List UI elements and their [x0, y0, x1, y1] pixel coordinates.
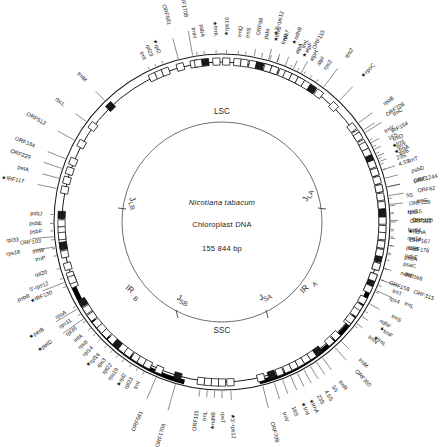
- gene-label: ORF115: [311, 29, 326, 50]
- gene-label: psbC: [413, 175, 427, 184]
- gene-label: trnV: [281, 411, 290, 423]
- gene-leader-line: [310, 366, 318, 379]
- gene-leader-line: [342, 342, 350, 350]
- gene-label: ORF1708: [179, 0, 189, 18]
- genome-diagram-svg: Nicotiana tabacum Chloroplast DNA 155 84…: [0, 0, 445, 447]
- gene-leader-line: [48, 152, 66, 159]
- gene-label: trnS: [390, 313, 402, 323]
- gene-leader-line: [291, 65, 292, 68]
- gene-leader-line: [376, 292, 379, 293]
- gene-leader-line: [88, 328, 90, 330]
- gene-leader-line: [324, 69, 338, 87]
- gene-label: ★trnI: [300, 401, 311, 416]
- gene-leader-line: [285, 57, 288, 65]
- inverted-repeat-a-arc: [260, 288, 371, 383]
- gene-leader-line: [130, 365, 132, 368]
- gene-label: trnL: [404, 300, 415, 309]
- gene-label: rps2: [343, 47, 354, 59]
- gene-label: 16S: [291, 406, 300, 418]
- region-label-ira: IR A: [298, 277, 319, 297]
- gene-box: [176, 63, 185, 72]
- gene-leader-line: [57, 269, 60, 270]
- gene-leader-line: [384, 269, 391, 271]
- gene-label: trnT: [407, 155, 419, 164]
- gene-leader-line: [373, 145, 376, 146]
- region-label-lsc: LSC: [214, 107, 230, 116]
- gene-leader-line: [136, 368, 138, 371]
- gene-box: [376, 193, 384, 201]
- gene-label: rps7: [220, 412, 226, 423]
- gene-label: ORF708: [269, 421, 280, 443]
- gene-leader-line: [379, 285, 382, 286]
- gene-label: ★rps16: [223, 17, 229, 36]
- species-name: Nicotiana tabacum: [189, 198, 255, 207]
- gene-leader-line: [78, 314, 81, 316]
- gene-leader-line: [370, 139, 373, 140]
- gene-box: [58, 211, 66, 219]
- gene-label: trnI: [139, 51, 148, 61]
- gene-leader-line: [98, 339, 100, 341]
- gene-label: psbI: [262, 28, 270, 40]
- gene-leader-line: [38, 185, 57, 189]
- gene-leader-line: [364, 123, 375, 130]
- gene-label: ORF115: [191, 410, 200, 431]
- gene-leader-line: [291, 376, 297, 390]
- gene-leader-line: [207, 390, 208, 397]
- gene-leader-line: [379, 158, 382, 159]
- gene-box: [240, 59, 248, 67]
- region-label-irb-text: IR: [124, 283, 136, 295]
- gene-box: [63, 262, 72, 271]
- gene-leader-line: [383, 166, 395, 170]
- gene-label: trnH: [190, 27, 197, 38]
- gene-box: [58, 220, 65, 227]
- gene-leader-line: [147, 378, 156, 399]
- region-label-ssc: SSC: [214, 326, 231, 335]
- gene-leader-line: [376, 152, 379, 153]
- gene-box: [60, 250, 68, 258]
- gene-leader-line: [155, 64, 156, 67]
- gene-leader-line: [378, 153, 384, 156]
- junction-label-jsa-sub: SA: [262, 292, 273, 302]
- gene-box: [223, 58, 230, 65]
- gene-leader-line: [116, 355, 118, 357]
- gene-leader-line: [317, 362, 325, 374]
- gene-box: [379, 225, 387, 233]
- junction-label-jla-sub: LA: [305, 189, 315, 200]
- gene-leader-line: [297, 68, 298, 71]
- gene-leader-line: [387, 184, 400, 187]
- gene-label: ORF229: [10, 148, 32, 160]
- gene-leader-line: [304, 72, 305, 75]
- gene-leader-line: [143, 372, 144, 375]
- gene-box: [378, 201, 386, 209]
- gene-leader-line: [58, 131, 75, 140]
- gene-label: trnM: [76, 71, 88, 83]
- gene-box: [377, 240, 385, 248]
- gene-leader-line: [385, 175, 398, 178]
- gene-label: ★petB: [28, 326, 45, 340]
- genome-size: 155 844 bp: [202, 244, 242, 253]
- gene-leader-line: [387, 260, 390, 261]
- region-label-irb-sub: B: [132, 295, 140, 304]
- gene-leader-line: [42, 174, 58, 178]
- gene-box: [211, 379, 219, 387]
- gene-leader-line: [73, 307, 76, 309]
- gene-leader-line: [261, 53, 262, 58]
- gene-label: IRF168: [404, 271, 423, 282]
- gene-box: [375, 248, 383, 256]
- gene-box: [372, 262, 381, 271]
- gene-label: trnS: [244, 27, 251, 38]
- gene-label: ORF62: [417, 185, 436, 194]
- gene-box: [65, 167, 74, 176]
- gene-leader-line: [297, 373, 304, 386]
- gene-label: trnL: [201, 411, 208, 421]
- gene-leader-line: [283, 380, 288, 394]
- gene-leader-line: [317, 79, 319, 81]
- gene-box: [378, 210, 386, 218]
- gene-label: psbB: [17, 292, 31, 302]
- gene-label: ORF184: [14, 135, 36, 148]
- gene-leader-line: [93, 334, 95, 336]
- gene-leader-line: [263, 386, 269, 408]
- chloroplast-genome-map: Nicotiana tabacum Chloroplast DNA 155 84…: [0, 0, 445, 447]
- gene-label: petA: [17, 164, 30, 173]
- gene-label: trnfM: [408, 227, 421, 234]
